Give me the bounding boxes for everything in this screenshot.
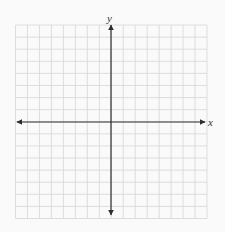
x-axis-label: x [207,116,213,128]
coordinate-plane: x y [0,0,225,232]
y-axis-label: y [106,12,112,24]
